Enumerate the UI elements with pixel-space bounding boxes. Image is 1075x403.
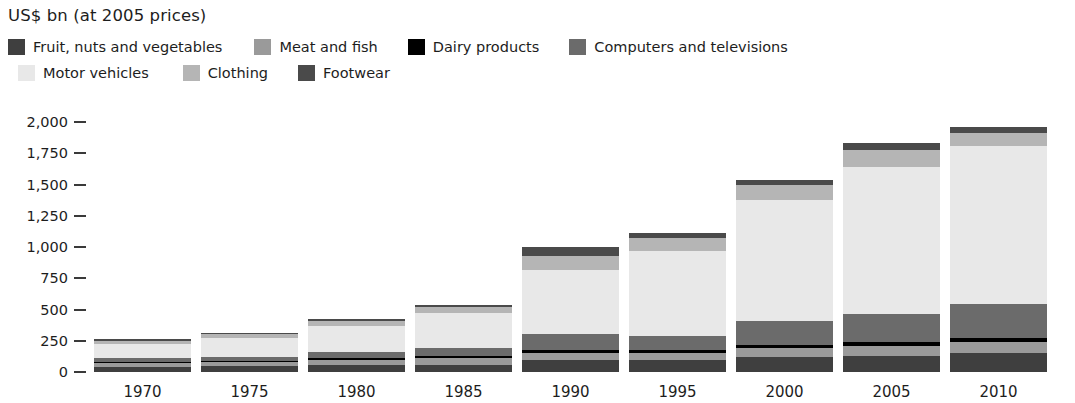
stacked-bar[interactable] [201,333,298,373]
stacked-bar[interactable] [843,143,940,372]
y-axis-tick: 1,750 [0,144,86,162]
bar-segment [94,344,191,358]
y-axis-tick-label: 1,000 [26,239,68,255]
bar-segment [843,167,940,314]
y-axis-tick: 0 [0,363,86,381]
bar-group: 1980 [308,319,405,372]
bar-segment [629,238,726,252]
legend-item[interactable]: Clothing [183,65,268,81]
y-axis-tick: 2,000 [0,113,86,131]
y-axis-tick-mark [74,340,86,342]
bar-segment [736,200,833,321]
y-axis-tick-label: 750 [40,270,68,286]
legend-label: Fruit, nuts and vegetables [33,40,222,55]
bar-segment [522,334,619,350]
bar-group: 2005 [843,143,940,372]
stacked-bar[interactable] [415,305,512,373]
y-axis-tick-mark [74,184,86,186]
y-axis-tick: 1,000 [0,238,86,256]
legend-label: Footwear [323,66,390,81]
y-axis-tick-mark [74,246,86,248]
plot-area: 2,0001,7501,5001,2501,0007505002500 1970… [0,108,1075,403]
y-axis-tick-label: 0 [59,364,68,380]
stacked-bar[interactable] [94,339,191,372]
y-axis-tick-mark [74,277,86,279]
bar-segment [950,133,1047,146]
bar-segment [629,360,726,372]
y-axis-tick-mark [74,152,86,154]
y-axis-tick: 500 [0,301,86,319]
bar-group: 1970 [94,339,191,372]
bar-group: 2010 [950,127,1047,372]
stacked-bar[interactable] [950,127,1047,372]
bar-group: 1985 [415,305,512,373]
legend-label: Clothing [208,66,268,81]
legend-swatch-icon [408,39,425,55]
bar-segment [522,353,619,361]
bar-segment [736,357,833,372]
legend-item[interactable]: Computers and televisions [569,39,788,55]
legend-swatch-icon [254,39,271,55]
bar-segment [201,338,298,357]
legend-swatch-icon [569,39,586,55]
bar-segment [201,366,298,372]
y-axis-tick-label: 1,750 [26,145,68,161]
legend-swatch-icon [183,65,200,81]
bar-segment [843,356,940,372]
legend-item[interactable]: Footwear [298,65,390,81]
y-axis-tick-label: 250 [40,333,68,349]
y-axis-tick-mark [74,309,86,311]
y-axis-tick-label: 2,000 [26,114,68,130]
bar-segment [308,365,405,372]
bar-segment [736,321,833,345]
y-axis-tick: 1,250 [0,207,86,225]
y-axis: 2,0001,7501,5001,2501,0007505002500 [0,108,86,373]
stacked-bar[interactable] [308,319,405,372]
bar-segment [950,304,1047,338]
stacked-bar[interactable] [736,180,833,373]
bar-segment [415,313,512,348]
bars-container: 197019751980198519901995200020052010 [88,108,1075,403]
bar-segment [950,342,1047,353]
legend-swatch-icon [8,39,25,55]
bar-segment [415,348,512,356]
axis-title: US$ bn (at 2005 prices) [8,6,206,25]
bar-segment [736,348,833,357]
legend-item[interactable]: Meat and fish [254,39,377,55]
bar-segment [843,314,940,343]
bar-segment [308,326,405,352]
chart-legend: Fruit, nuts and vegetablesMeat and fishD… [8,34,1068,86]
bar-segment [736,185,833,201]
legend-item[interactable]: Motor vehicles [18,65,149,81]
legend-label: Motor vehicles [43,66,149,81]
y-axis-tick-mark [74,371,86,373]
bar-segment [843,150,940,167]
y-axis-tick: 250 [0,332,86,350]
y-axis-tick-label: 1,250 [26,208,68,224]
stacked-bar[interactable] [629,233,726,372]
legend-item[interactable]: Dairy products [408,39,540,55]
y-axis-tick: 750 [0,269,86,287]
bar-segment [415,365,512,373]
legend-label: Meat and fish [279,40,377,55]
y-axis-tick-label: 1,500 [26,177,68,193]
bar-segment [522,256,619,270]
y-axis-tick: 1,500 [0,176,86,194]
bar-segment [522,270,619,334]
stacked-bar[interactable] [522,247,619,372]
legend-label: Dairy products [433,40,540,55]
y-axis-tick-mark [74,121,86,123]
page-bottom-text [0,396,1075,403]
bar-group: 1995 [629,233,726,372]
bar-segment [629,251,726,336]
legend-swatch-icon [18,65,35,81]
bar-segment [522,360,619,372]
bar-segment [950,353,1047,372]
bar-group: 1975 [201,333,298,373]
legend-row-2: Motor vehiclesClothingFootwear [8,60,1068,86]
bar-segment [629,353,726,361]
bar-segment [94,367,191,372]
legend-swatch-icon [298,65,315,81]
legend-row-1: Fruit, nuts and vegetablesMeat and fishD… [8,34,1068,60]
legend-item[interactable]: Fruit, nuts and vegetables [8,39,222,55]
